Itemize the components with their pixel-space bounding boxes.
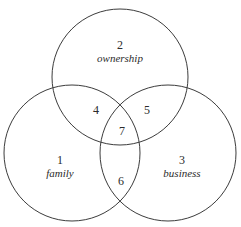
venn-circles-svg: [0, 0, 241, 227]
venn-diagram: 2 ownership 1 family 3 business 4 5 6 7: [0, 0, 241, 227]
circle-ownership: [52, 9, 188, 145]
